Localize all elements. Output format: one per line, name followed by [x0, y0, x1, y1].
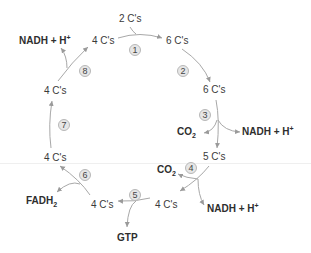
product-co2-step4: CO2	[157, 165, 176, 175]
product-nadh-step8: NADH + H+	[19, 36, 71, 46]
intermediate-5c: 5 C's	[203, 152, 225, 162]
intermediate-4c-bottom-left: 4 C's	[91, 200, 113, 210]
intermediate-6c-top: 6 C's	[166, 36, 188, 46]
product-nadh-step3: NADH + H+	[242, 127, 294, 137]
intermediate-4c-left-upper: 4 C's	[44, 86, 66, 96]
step-6-badge: 6	[79, 169, 91, 181]
step-3-badge: 3	[199, 109, 211, 121]
step-4-badge: 4	[185, 162, 197, 174]
step-1-badge: 1	[129, 44, 141, 56]
product-gtp-step5: GTP	[117, 233, 138, 243]
step-2-badge: 2	[177, 65, 189, 77]
step-5-badge: 5	[129, 189, 141, 201]
intermediate-6c-right: 6 C's	[203, 85, 225, 95]
intermediate-4c-top: 4 C's	[92, 36, 114, 46]
intermediate-4c-bottom-right: 4 C's	[155, 200, 177, 210]
product-co2-step3: CO2	[177, 127, 196, 137]
product-fadh2-step6: FADH2	[26, 196, 57, 206]
input-2-carbons: 2 C's	[119, 14, 141, 24]
intermediate-4c-left-lower: 4 C's	[44, 153, 66, 163]
step-8-badge: 8	[79, 65, 91, 77]
product-nadh-step4: NADH + H+	[207, 204, 259, 214]
step-7-badge: 7	[58, 119, 70, 131]
